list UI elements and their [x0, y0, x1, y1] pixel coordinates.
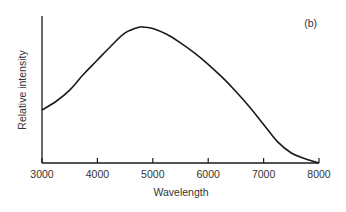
x-tick-label: 8000: [307, 168, 331, 180]
plot-area: 300040005000600070008000: [30, 16, 331, 180]
y-axis-label: Relative intensity: [16, 50, 28, 130]
intensity-curve: [42, 27, 319, 163]
x-tick-label: 3000: [30, 168, 54, 180]
x-tick-label: 4000: [86, 168, 110, 180]
x-tick-label: 5000: [141, 168, 165, 180]
x-ticks: 300040005000600070008000: [30, 158, 331, 180]
spectrum-chart: 300040005000600070008000 (b) Relative in…: [0, 0, 346, 212]
x-tick-label: 7000: [252, 168, 276, 180]
x-tick-label: 6000: [197, 168, 221, 180]
x-axis-label: Wavelength: [153, 186, 208, 198]
panel-label: (b): [304, 17, 317, 29]
